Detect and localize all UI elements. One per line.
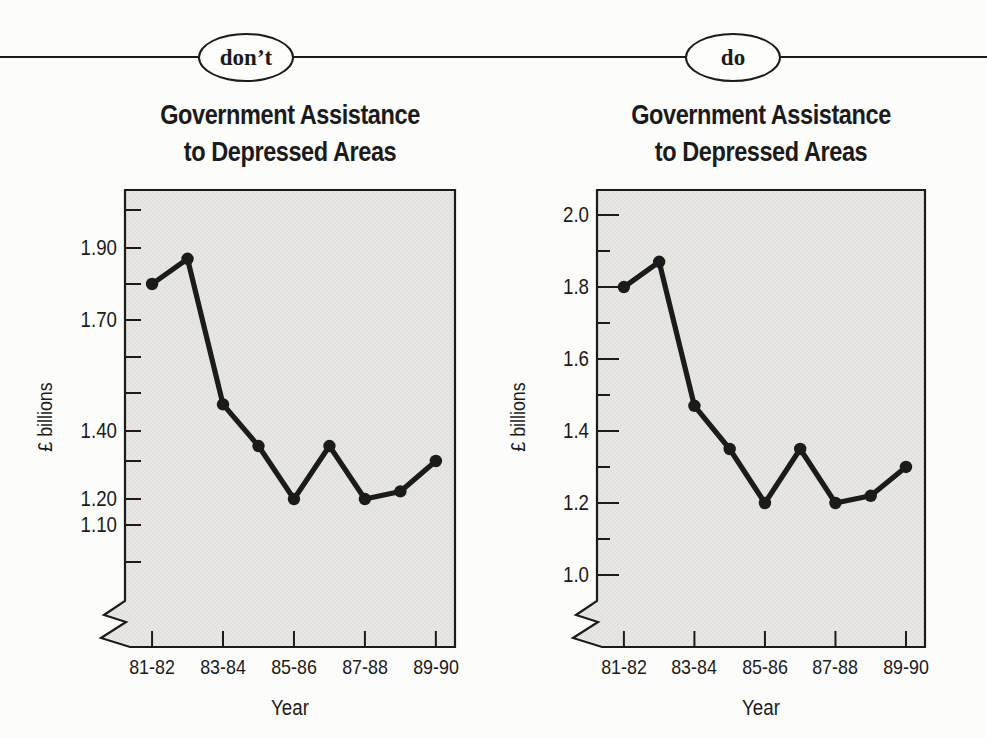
x-tick-label: 85-86 [258, 655, 329, 679]
x-axis-title: Year [622, 695, 901, 721]
x-tick-label: 83-84 [659, 655, 730, 679]
data-point [900, 461, 912, 473]
do-badge-label: do [721, 45, 745, 71]
do-badge: do [685, 33, 781, 82]
chart-title: Government Assistance to Depressed Areas [623, 96, 899, 170]
y-tick-label: 1.20 [63, 487, 117, 511]
data-point [618, 281, 630, 293]
data-point [217, 398, 229, 410]
chart-title-line1: Government Assistance [151, 96, 428, 133]
x-axis-title: Year [150, 695, 431, 721]
data-point [288, 493, 300, 505]
plot-frame [101, 190, 455, 647]
y-axis-title: £ billions [32, 345, 58, 490]
data-point [252, 440, 264, 452]
y-tick-label: 1.70 [63, 308, 117, 332]
x-tick-label: 87-88 [329, 655, 400, 679]
y-tick-label: 1.6 [535, 347, 589, 371]
x-tick-label: 85-86 [729, 655, 800, 679]
y-axis-title: £ billions [505, 345, 531, 490]
data-point [759, 497, 771, 509]
y-tick-label: 1.0 [535, 563, 589, 587]
data-point [181, 253, 193, 265]
x-tick-label: 83-84 [187, 655, 258, 679]
data-point [394, 485, 406, 497]
y-tick-label: 2.0 [535, 203, 589, 227]
divider-line [0, 56, 987, 58]
y-tick-label: 1.8 [535, 275, 589, 299]
data-point [688, 400, 700, 412]
dont-badge-label: don’t [220, 45, 272, 71]
plot-frame [573, 190, 925, 647]
x-tick-label: 89-90 [870, 655, 941, 679]
chart-title-line2: to Depressed Areas [623, 133, 899, 170]
y-tick-label: 1.10 [63, 513, 117, 537]
plot-area-do [573, 190, 925, 647]
data-point [794, 443, 806, 455]
data-point [430, 455, 442, 467]
data-point [723, 443, 735, 455]
data-point [359, 493, 371, 505]
chart-title-line1: Government Assistance [623, 96, 899, 133]
page: { "page": { "background": "#fcfcfa", "in… [0, 0, 987, 738]
chart-title: Government Assistance to Depressed Areas [151, 96, 428, 170]
y-tick-label: 1.40 [63, 419, 117, 443]
x-tick-label: 81-82 [588, 655, 659, 679]
data-point [323, 440, 335, 452]
x-tick-label: 89-90 [400, 655, 471, 679]
data-point [653, 256, 665, 268]
plot-area-dont [101, 190, 455, 647]
data-point [865, 490, 877, 502]
data-point [146, 278, 158, 290]
data-point [829, 497, 841, 509]
x-tick-label: 81-82 [116, 655, 187, 679]
y-tick-label: 1.90 [63, 236, 117, 260]
dont-badge: don’t [198, 33, 294, 82]
y-tick-label: 1.2 [535, 491, 589, 515]
x-tick-label: 87-88 [800, 655, 871, 679]
y-tick-label: 1.4 [535, 419, 589, 443]
chart-title-line2: to Depressed Areas [151, 133, 428, 170]
